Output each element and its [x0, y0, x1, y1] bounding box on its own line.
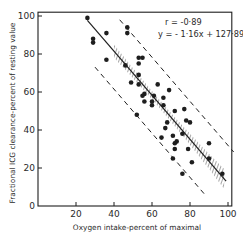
- data-point: [136, 61, 141, 66]
- data-point: [104, 57, 109, 62]
- regression-line-path: [87, 20, 226, 181]
- data-point: [136, 73, 141, 78]
- data-point: [123, 63, 128, 68]
- data-point: [150, 103, 155, 108]
- scatter-chart: 020406080100 20406080100 r = -0·89 y = -…: [0, 0, 243, 238]
- data-point: [165, 120, 170, 125]
- data-point: [152, 94, 157, 99]
- data-point: [142, 99, 147, 104]
- confidence-band-hatch: [114, 44, 224, 189]
- data-point: [140, 56, 145, 61]
- x-tick-label: 80: [184, 209, 196, 219]
- data-point: [140, 94, 145, 99]
- data-point: [190, 160, 195, 165]
- data-point: [188, 120, 193, 125]
- data-point: [173, 147, 178, 152]
- data-point: [171, 156, 176, 161]
- confidence-band: [114, 44, 224, 189]
- x-tick-label: 20: [70, 209, 82, 219]
- data-point: [186, 147, 191, 152]
- plot-border: [38, 12, 232, 206]
- data-point: [125, 31, 130, 36]
- y-tick-label: 20: [24, 163, 36, 173]
- upper-limit-line: [120, 20, 234, 152]
- y-tick-label: 60: [24, 87, 36, 97]
- data-point: [161, 95, 166, 100]
- data-point: [173, 109, 178, 114]
- y-tick-label: 0: [29, 201, 35, 211]
- lower-limit-line: [95, 67, 205, 195]
- data-point: [135, 113, 140, 118]
- y-tick-label: 40: [24, 125, 36, 135]
- y-tick-label: 80: [24, 49, 36, 59]
- data-point: [220, 171, 225, 176]
- data-point: [180, 132, 185, 137]
- plot-frame: [38, 12, 232, 206]
- x-tick-label: 100: [219, 209, 236, 219]
- x-tick-label: 60: [146, 209, 158, 219]
- data-point: [125, 25, 130, 30]
- data-point: [129, 80, 134, 85]
- data-point: [171, 133, 176, 138]
- correlation-annotation: r = -0·89: [165, 17, 202, 27]
- x-tick-label: 40: [108, 209, 120, 219]
- data-point: [159, 135, 164, 140]
- x-axis-label: Oxygen intake-percent of maximal: [73, 223, 201, 232]
- regression-equation-annotation: y = - 1·16x + 127·89: [158, 29, 243, 39]
- data-point: [85, 16, 90, 21]
- data-point: [207, 141, 212, 146]
- data-point: [180, 171, 185, 176]
- y-tick-label: 100: [18, 11, 35, 21]
- data-point: [104, 31, 109, 36]
- data-point: [161, 103, 166, 108]
- data-point: [136, 82, 141, 87]
- data-point: [207, 156, 212, 161]
- data-point: [173, 141, 178, 146]
- data-point: [91, 40, 96, 45]
- data-point: [163, 126, 168, 131]
- data-point: [155, 82, 160, 87]
- data-point: [167, 88, 172, 93]
- data-point: [182, 107, 187, 112]
- x-axis: 20406080100: [70, 202, 237, 219]
- y-axis-label: Fractional ICG clearance-percent of rest…: [8, 22, 17, 203]
- regression-line: [87, 20, 226, 181]
